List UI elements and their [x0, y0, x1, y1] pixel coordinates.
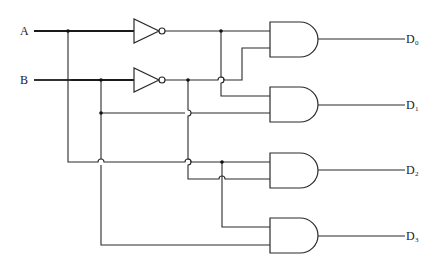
svg-text:3: 3	[415, 236, 419, 244]
and-gate-d1	[270, 87, 405, 122]
junction-dots	[66, 29, 224, 164]
and-gate-d3	[270, 218, 405, 253]
svg-text:D: D	[406, 163, 415, 177]
input-label-b: B	[20, 73, 28, 87]
output-label-d1: D 1	[406, 98, 419, 113]
inverter-b	[134, 68, 165, 92]
svg-text:D: D	[406, 229, 415, 243]
svg-text:0: 0	[415, 39, 419, 47]
decoder-diagram: A B	[0, 0, 436, 271]
wire-a-to-d3	[222, 162, 270, 227]
output-label-d0: D 0	[406, 32, 419, 47]
svg-text:D: D	[406, 98, 415, 112]
svg-text:D: D	[406, 32, 415, 46]
output-label-d2: D 2	[406, 163, 419, 178]
wire-a-not	[165, 31, 270, 96]
input-label-a: A	[20, 24, 29, 38]
inverter-a	[134, 19, 165, 43]
svg-text:2: 2	[415, 170, 419, 178]
svg-text:1: 1	[415, 105, 419, 113]
and-gate-d0	[270, 22, 405, 57]
and-gate-d2	[270, 153, 405, 188]
output-label-d3: D 3	[406, 229, 419, 244]
